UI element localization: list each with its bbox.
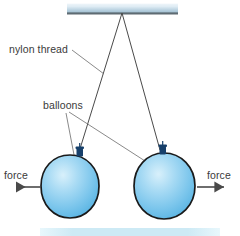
ceiling-support-bar (67, 3, 178, 15)
balloon-right (134, 141, 195, 219)
diagram-canvas: nylon thread balloons force force (0, 0, 240, 236)
thread-right-line (122, 13, 160, 150)
thread-left-line (79, 13, 122, 152)
floor-strip (40, 228, 220, 236)
balloon-left (41, 143, 99, 218)
label-force-left: force (4, 170, 28, 181)
nylon-threads (79, 13, 160, 152)
label-force-right: force (207, 170, 231, 181)
label-balloons: balloons (43, 100, 83, 111)
balloon-left-knot (76, 143, 85, 157)
leader-line-nylon-thread (72, 50, 104, 74)
balloon-right-knot (159, 141, 168, 155)
label-nylon-thread: nylon thread (9, 44, 68, 55)
balloon-force-diagram (0, 0, 240, 236)
